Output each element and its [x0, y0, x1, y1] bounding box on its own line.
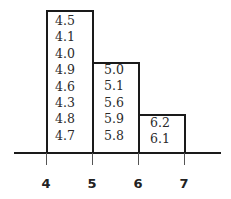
x-tick-label: 7	[174, 176, 194, 191]
value: 6.1	[150, 131, 170, 147]
value: 4.7	[55, 128, 75, 144]
x-tick-label: 4	[36, 176, 56, 191]
x-tick	[138, 153, 139, 165]
value: 5.1	[104, 78, 124, 94]
value: 4.6	[55, 79, 75, 95]
value: 5.9	[104, 111, 124, 127]
x-tick	[92, 153, 93, 165]
value: 4.8	[55, 111, 75, 127]
bin-4-5-values: 4.5 4.1 4.0 4.9 4.6 4.3 4.8 4.7	[55, 13, 75, 144]
value: 5.8	[104, 128, 124, 144]
value: 4.0	[55, 46, 75, 62]
bin-5-6-values: 5.0 5.1 5.6 5.9 5.8	[104, 62, 124, 144]
value: 4.3	[55, 95, 75, 111]
value: 5.6	[104, 95, 124, 111]
value: 6.2	[150, 115, 170, 131]
value: 5.0	[104, 62, 124, 78]
value: 4.9	[55, 62, 75, 78]
value: 4.1	[55, 29, 75, 45]
x-tick	[184, 153, 185, 165]
bin-6-7-values: 6.2 6.1	[150, 115, 170, 148]
x-tick-label: 6	[128, 176, 148, 191]
x-tick	[46, 153, 47, 165]
x-tick-label: 5	[82, 176, 102, 191]
value: 4.5	[55, 13, 75, 29]
